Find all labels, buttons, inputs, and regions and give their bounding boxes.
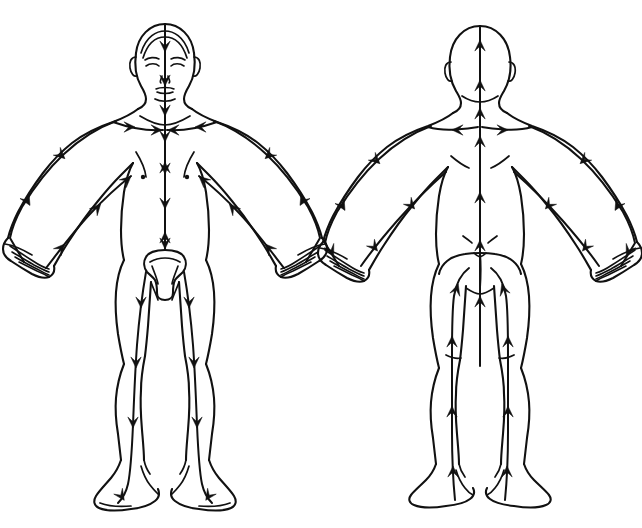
meridian-diagram-root [0, 0, 642, 528]
anterior-nipple-right [185, 175, 189, 179]
diagram-background [0, 0, 642, 528]
anterior-nipple-left [141, 175, 145, 179]
meridian-diagram-canvas [0, 0, 642, 528]
